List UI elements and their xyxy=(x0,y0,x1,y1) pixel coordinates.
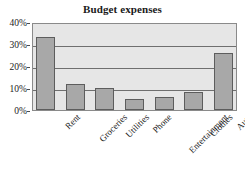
y-tick-label: 0% xyxy=(14,106,27,116)
y-tick-mark xyxy=(27,111,30,112)
x-tick-label: Groceries xyxy=(97,112,129,144)
chart-title: Budget expenses xyxy=(0,3,245,15)
x-tick-label: Rent xyxy=(63,112,82,131)
bar xyxy=(214,53,233,110)
y-tick-label: 30% xyxy=(10,40,27,50)
x-tick-label: Utilities xyxy=(124,112,152,140)
y-tick-mark xyxy=(27,89,30,90)
y-tick-label: 20% xyxy=(10,62,27,72)
bar xyxy=(66,84,85,110)
y-tick-mark xyxy=(27,23,30,24)
bar xyxy=(184,92,203,110)
x-axis: RentGroceriesUtilitiesPhoneEntertainment… xyxy=(32,112,237,168)
plot-area xyxy=(32,23,237,111)
bar xyxy=(36,37,55,110)
x-tick-label: Clothes xyxy=(208,112,235,139)
y-tick-label: 40% xyxy=(10,18,27,28)
bar-chart: Budget expenses 0%10%20%30%40% RentGroce… xyxy=(0,0,245,169)
bar xyxy=(125,99,144,110)
x-tick-label: Auto xyxy=(234,112,245,132)
bar xyxy=(95,88,114,110)
y-tick-mark xyxy=(27,67,30,68)
y-axis: 0%10%20%30%40% xyxy=(0,23,30,111)
bar-series xyxy=(33,24,236,110)
y-tick-mark xyxy=(27,45,30,46)
x-tick-label: Phone xyxy=(150,112,173,135)
bar xyxy=(155,97,174,110)
y-tick-label: 10% xyxy=(10,84,27,94)
